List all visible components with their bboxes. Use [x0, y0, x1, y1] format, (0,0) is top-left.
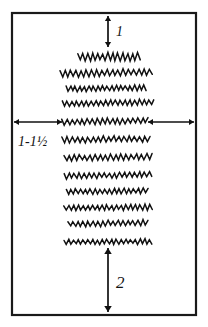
stitch-diagram: 1 1-1½ 2 [0, 0, 208, 327]
side-margin-label: 1-1½ [18, 134, 48, 149]
diagram-canvas: 1 1-1½ 2 [0, 0, 208, 327]
bottom-margin-label: 2 [116, 273, 125, 292]
top-margin-label: 1 [116, 24, 123, 39]
